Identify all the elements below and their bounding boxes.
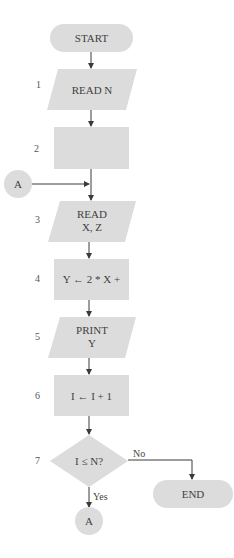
step5-number: 5 — [35, 331, 40, 342]
yes-branch-label: Yes — [93, 491, 108, 502]
step3-number: 3 — [35, 214, 40, 225]
step2-number: 2 — [34, 143, 39, 154]
step5-label-line2: Y — [52, 337, 132, 349]
step4-label: Y ← 2 * X + — [54, 273, 129, 285]
start-label: START — [50, 32, 133, 44]
step6-number: 6 — [35, 390, 40, 401]
step3-label-line2: X, Z — [52, 221, 132, 233]
step1-number: 1 — [36, 79, 41, 90]
no-branch-label: No — [133, 448, 145, 459]
step6-label: I ← I + 1 — [54, 390, 129, 402]
connector-a-out-label: A — [75, 515, 103, 527]
step4-number: 4 — [35, 273, 40, 284]
arrow-no-branch — [128, 460, 192, 479]
end-label: END — [153, 488, 233, 500]
step7-label: I ≤ N? — [54, 455, 124, 467]
step1-label: READ N — [52, 84, 132, 96]
step5-label-line1: PRINT — [52, 324, 132, 336]
connector-a-in-label: A — [4, 178, 32, 190]
step2-process-shape — [54, 127, 129, 169]
step3-label-line1: READ — [52, 208, 132, 220]
step7-number: 7 — [35, 455, 40, 466]
